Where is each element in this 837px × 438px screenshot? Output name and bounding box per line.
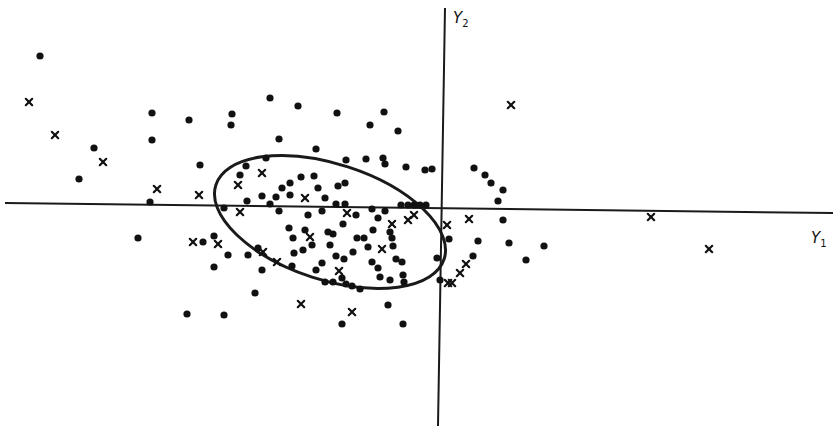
dot-point (308, 241, 315, 248)
cross-point (336, 268, 342, 274)
dot-point (199, 238, 206, 245)
dot-point (384, 301, 391, 308)
data-points (26, 52, 712, 327)
dot-point (353, 234, 360, 241)
y-axis-line (438, 8, 445, 426)
dot-point (183, 310, 190, 317)
dot-point (342, 156, 349, 163)
dot-point (185, 116, 192, 123)
dot-point (262, 154, 269, 161)
dot-point (224, 251, 231, 258)
dot-point (356, 285, 363, 292)
ellipse-outline (198, 130, 462, 314)
dot-point (421, 166, 428, 173)
cross-point (298, 301, 304, 307)
dot-point (294, 102, 301, 109)
dot-point (251, 289, 258, 296)
dot-point (364, 243, 371, 250)
cross-point (237, 209, 243, 215)
dot-point (433, 254, 440, 261)
dot-point (288, 262, 295, 269)
dot-point (301, 226, 308, 233)
cross-point (235, 182, 241, 188)
dot-point (474, 237, 481, 244)
dot-point (399, 271, 406, 278)
dot-point (220, 311, 227, 318)
dot-point (398, 258, 405, 265)
dot-point (494, 197, 501, 204)
cross-point (706, 246, 712, 252)
dot-point (299, 246, 306, 253)
dot-point (470, 164, 477, 171)
dot-point (210, 263, 217, 270)
dot-point (374, 264, 381, 271)
dot-point (275, 207, 282, 214)
cross-point (411, 212, 417, 218)
cross-point (457, 270, 463, 276)
dot-point (243, 197, 250, 204)
cross-point (215, 241, 221, 247)
cross-point (508, 102, 514, 108)
cross-point (196, 192, 202, 198)
dot-point (196, 161, 203, 168)
dot-point (275, 135, 282, 142)
dot-point (310, 172, 317, 179)
dot-point (341, 179, 348, 186)
dot-point (266, 200, 273, 207)
dot-point (339, 220, 346, 227)
dot-point (272, 193, 279, 200)
cross-point (259, 170, 265, 176)
dot-point (286, 191, 293, 198)
dot-point (389, 242, 396, 249)
dot-point (333, 109, 340, 116)
dot-point (374, 214, 381, 221)
dot-point (352, 211, 359, 218)
dot-point (318, 207, 325, 214)
dot-point (505, 239, 512, 246)
x-axis-label: Y1 (811, 229, 827, 249)
dot-point (90, 144, 97, 151)
dot-point (338, 274, 345, 281)
dot-point (338, 320, 345, 327)
dot-point (312, 145, 319, 152)
dot-point (394, 127, 401, 134)
cross-point (463, 261, 469, 267)
dot-point (146, 198, 153, 205)
dot-point (36, 52, 43, 59)
dot-point (362, 155, 369, 162)
cross-point (349, 309, 355, 315)
dot-point (341, 200, 348, 207)
dot-point (400, 278, 407, 285)
confidence-ellipse (198, 130, 462, 314)
dot-point (148, 109, 155, 116)
dot-point (228, 110, 235, 117)
cross-point (445, 280, 451, 286)
dot-point (360, 234, 367, 241)
dot-point (481, 171, 488, 178)
dot-point (380, 108, 387, 115)
dot-point (332, 200, 339, 207)
dot-point (469, 252, 476, 259)
dot-point (381, 160, 388, 167)
scatter-plot (0, 0, 837, 438)
cross-point (26, 99, 32, 105)
cross-point (52, 132, 58, 138)
dot-point (134, 234, 141, 241)
dot-point (290, 249, 297, 256)
dot-point (348, 282, 355, 289)
dot-point (499, 216, 506, 223)
dot-point (285, 224, 292, 231)
dot-point (369, 226, 376, 233)
dot-point (321, 194, 328, 201)
dot-point (386, 276, 393, 283)
dot-point (376, 273, 383, 280)
dot-point (436, 276, 443, 283)
dot-point (402, 163, 409, 170)
axes (5, 8, 833, 426)
dot-point (329, 230, 336, 237)
dot-point (366, 121, 373, 128)
dot-point (297, 173, 304, 180)
dot-point (321, 278, 328, 285)
dot-point (278, 184, 285, 191)
dot-point (210, 232, 217, 239)
